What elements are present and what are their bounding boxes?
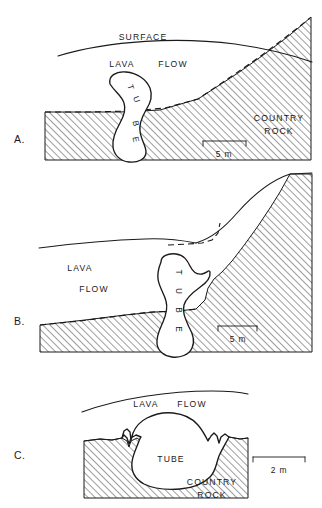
panel-c: TUBE LAVA FLOW COUNTRY ROCK 2 m C. — [14, 391, 305, 500]
panel-a-lava-label: LAVA — [109, 59, 134, 69]
panel-a-flow-label: FLOW — [158, 59, 187, 69]
panel-c-tube-label: TUBE — [157, 454, 185, 464]
panel-b-letter: B. — [14, 315, 25, 327]
panel-b: T U B E LAVA FLOW 5 m B. — [14, 173, 312, 357]
panel-a-scale-label: 5 m — [216, 149, 233, 159]
panel-c-country-label: COUNTRY — [187, 477, 237, 487]
panel-b-scale-label: 5 m — [230, 334, 247, 344]
svg-text:T: T — [174, 269, 184, 274]
svg-text:B: B — [174, 307, 184, 313]
lava-tube-cross-section-diagram: T U B E SURFACE LAVA FLOW COUNTRY ROCK 5… — [0, 0, 322, 508]
panel-a-letter: A. — [14, 133, 25, 145]
panel-b-lava-label: LAVA — [67, 263, 92, 273]
panel-a-surface-label: SURFACE — [119, 32, 168, 42]
panel-a-country-label: COUNTRY — [254, 113, 304, 123]
panel-a-country-rock — [45, 17, 311, 160]
svg-text:E: E — [174, 326, 184, 332]
panel-b-flow-label: FLOW — [79, 284, 108, 294]
panel-c-lava-label: LAVA — [133, 399, 158, 409]
panel-b-upper-contact-line — [168, 223, 220, 245]
panel-c-letter: C. — [14, 449, 25, 461]
panel-c-scale-label: 2 m — [271, 465, 288, 475]
panel-b-surface-line — [39, 239, 196, 248]
panel-c-rock-label: ROCK — [197, 490, 226, 500]
panel-c-scale-bar: 2 m — [253, 457, 305, 475]
svg-text:U: U — [174, 288, 184, 294]
panel-c-flow-label: FLOW — [177, 399, 206, 409]
figure-root: T U B E SURFACE LAVA FLOW COUNTRY ROCK 5… — [0, 0, 322, 508]
panel-a-rock-label: ROCK — [264, 126, 293, 136]
panel-a: T U B E SURFACE LAVA FLOW COUNTRY ROCK 5… — [14, 17, 312, 162]
panel-c-surface-line — [82, 391, 248, 412]
